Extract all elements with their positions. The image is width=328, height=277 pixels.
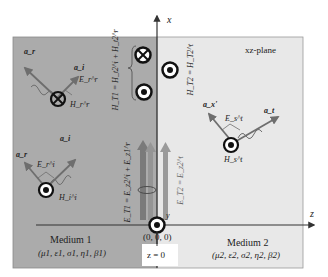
right-e-label: E_s^t	[225, 114, 243, 123]
x-axis-label: x	[167, 14, 171, 25]
equation-h-t2: H_T2 = H_T2^t	[186, 46, 195, 96]
h-out-of-page-left-icon	[137, 85, 152, 100]
medium2-params: (μ2, ε2, σ2, η2, β2)	[212, 250, 280, 260]
top-left-a-i-label: a_i	[74, 63, 84, 72]
right-a-t-label: a_t	[264, 106, 274, 115]
diagram-canvas: x z y (0, 0, 0) z = 0 xz-plane Medium 1 …	[0, 0, 328, 277]
boundary-label: z = 0	[147, 250, 165, 260]
equation-h-t1: H_T1 = H_t2^i + H_t2^r	[111, 31, 120, 111]
top-left-h-label: H_r^r	[70, 100, 89, 109]
equation-e-t2: E_T2 = E_z2^t	[176, 153, 185, 209]
medium1-title: Medium 1	[50, 234, 91, 245]
bottom-left-h-label: H_i^i	[59, 193, 77, 202]
z-axis-label: z	[310, 208, 314, 219]
h-out-of-page-right-icon	[163, 63, 178, 78]
h-into-page-top-icon	[136, 48, 151, 63]
bottom-left-a-i-label: a_i	[60, 134, 70, 143]
equation-e-t1: E_T1 = E_z2^i + E_z1^r	[123, 143, 132, 223]
y-axis-label: y	[166, 211, 170, 220]
right-a-x-label: a_x'	[203, 100, 217, 109]
origin-h-out-icon	[150, 218, 165, 233]
plane-label: xz-plane	[245, 45, 276, 55]
top-left-e-label: E_r^r	[79, 75, 98, 84]
medium2-title: Medium 2	[227, 237, 268, 248]
right-h-label: H_s^t	[224, 155, 243, 164]
medium1-params: (μ1, ε1, σ1, η1, β1)	[38, 248, 106, 258]
origin-label: (0, 0, 0)	[143, 232, 172, 242]
top-left-a-r-label: a_r	[24, 47, 35, 56]
bottom-left-a-r-label: a_r	[16, 150, 27, 159]
bottom-left-e-label: E_r^i	[37, 160, 55, 169]
